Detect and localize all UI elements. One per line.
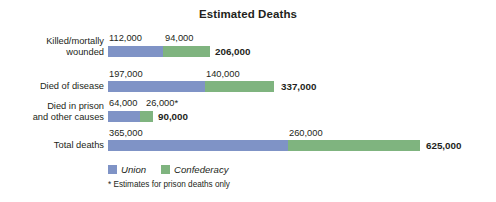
row-label-line1: Killed/mortally xyxy=(46,36,104,46)
row-label: Died of disease xyxy=(6,81,104,92)
confederacy-value-label: 26,000* xyxy=(146,98,178,108)
chart-title: Estimated Deaths xyxy=(0,8,496,20)
row-label: Killed/mortally wounded xyxy=(6,36,104,58)
total-value-label: 90,000 xyxy=(158,111,188,122)
total-value-label: 206,000 xyxy=(215,46,250,57)
stacked-bar xyxy=(108,81,274,92)
legend-label-union: Union xyxy=(121,164,146,175)
bar-segment-confederacy xyxy=(163,46,210,57)
bar-segment-union xyxy=(108,46,163,57)
chart-legend: Union Confederacy xyxy=(108,164,236,175)
legend-swatch-confederacy-icon xyxy=(161,165,170,174)
stacked-bar xyxy=(108,111,153,122)
bar-segment-union xyxy=(108,111,140,122)
total-value-label: 625,000 xyxy=(426,140,461,151)
row-label-line1: Died of disease xyxy=(40,81,104,91)
row-label-line2: wounded xyxy=(66,47,104,57)
row-label-line1: Died in prison xyxy=(47,101,104,111)
confederacy-value-label: 260,000 xyxy=(289,128,323,138)
bar-row: Died of disease 197,000 140,000 337,000 xyxy=(0,69,496,95)
bar-row: Total deaths 365,000 260,000 625,000 xyxy=(0,128,496,154)
union-value-label: 112,000 xyxy=(109,33,142,43)
stacked-bar xyxy=(108,140,420,151)
bar-segment-confederacy xyxy=(288,140,420,151)
stacked-bar xyxy=(108,46,210,57)
legend-item-confederacy: Confederacy xyxy=(161,164,228,175)
bar-segment-confederacy xyxy=(140,111,153,122)
bar-segment-union xyxy=(108,81,205,92)
confederacy-value-label: 140,000 xyxy=(206,69,240,79)
row-label: Died in prison and other causes xyxy=(6,101,104,123)
total-value-label: 337,000 xyxy=(281,81,316,92)
bar-segment-union xyxy=(108,140,288,151)
union-value-label: 64,000 xyxy=(109,98,137,108)
row-label: Total deaths xyxy=(6,140,104,151)
legend-item-union: Union xyxy=(108,164,146,175)
chart-footnote: * Estimates for prison deaths only xyxy=(108,180,230,189)
union-value-label: 197,000 xyxy=(109,69,143,79)
legend-label-confederacy: Confederacy xyxy=(174,164,228,175)
estimated-deaths-chart: Estimated Deaths Killed/mortally wounded… xyxy=(0,0,496,202)
union-value-label: 365,000 xyxy=(109,128,143,138)
confederacy-value-label: 94,000 xyxy=(165,33,193,43)
row-label-line2: and other causes xyxy=(33,112,104,122)
bar-row: Killed/mortally wounded 112,000 94,000 2… xyxy=(0,33,496,63)
bar-row: Died in prison and other causes 64,000 2… xyxy=(0,98,496,128)
bar-segment-confederacy xyxy=(205,81,274,92)
row-label-line1: Total deaths xyxy=(54,140,104,150)
legend-swatch-union-icon xyxy=(108,165,117,174)
